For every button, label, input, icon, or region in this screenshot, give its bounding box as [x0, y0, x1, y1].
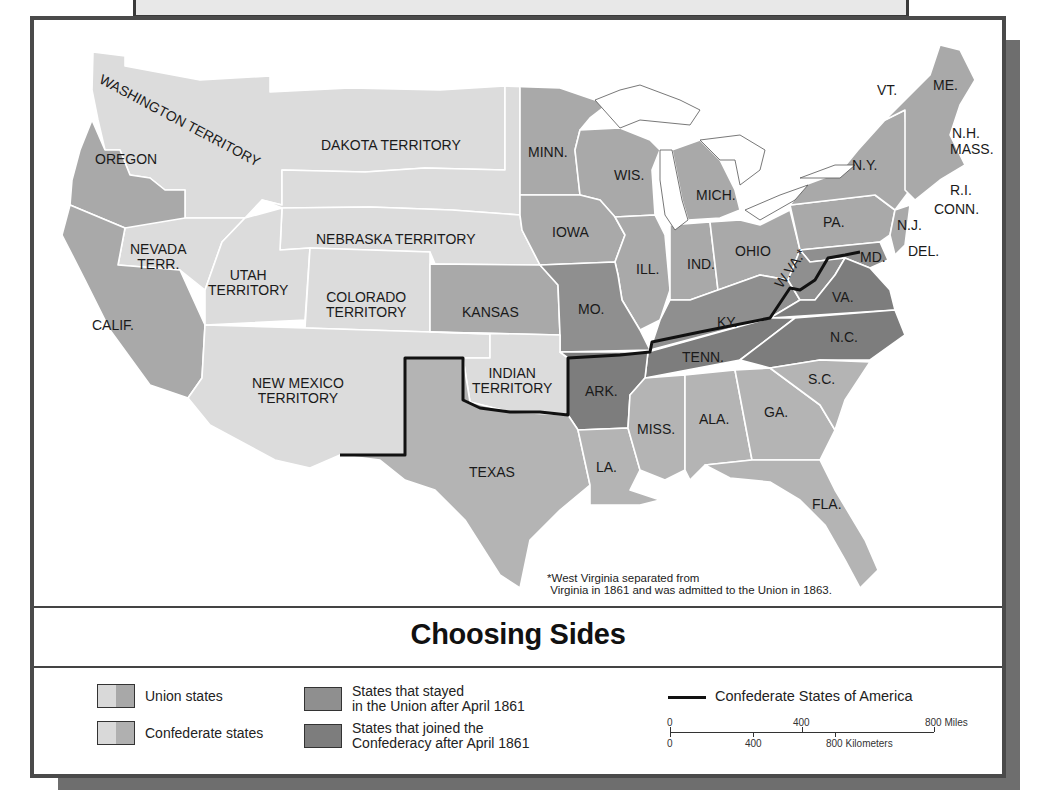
region-new-york	[790, 110, 910, 210]
title-rule-bottom	[34, 666, 1002, 668]
label-ind: IND.	[687, 257, 715, 272]
label-del: DEL.	[908, 244, 939, 259]
swatch-union	[97, 684, 135, 708]
label-vt: VT.	[877, 83, 897, 98]
label-dakota: DAKOTA TERRITORY	[321, 138, 461, 153]
label-iowa: IOWA	[552, 225, 589, 240]
scale-tick-800km	[835, 732, 836, 737]
legend-union-states: Union states	[97, 684, 223, 708]
title-rule-top	[34, 606, 1002, 608]
label-indian: INDIANTERRITORY	[472, 366, 552, 396]
label-ky: KY.	[717, 315, 738, 330]
label-me: ME.	[933, 78, 958, 93]
footnote: *West Virginia separated from Virginia i…	[547, 572, 832, 596]
scale-km-0: 0	[667, 738, 673, 749]
label-kansas: KANSAS	[462, 305, 519, 320]
label-sc: S.C.	[808, 372, 835, 387]
scale-miles-400: 400	[793, 717, 810, 728]
label-ill: ILL.	[636, 262, 659, 277]
label-nebraska: NEBRASKA TERRITORY	[316, 232, 476, 247]
label-nevada: NEVADATERR.	[130, 242, 187, 272]
scale-miles-0: 0	[667, 717, 673, 728]
legend-joined-confederacy: States that joined theConfederacy after …	[304, 721, 529, 751]
label-oregon: OREGON	[95, 152, 157, 167]
label-nh: N.H.	[952, 126, 980, 141]
swatch-confederate	[97, 721, 135, 745]
label-ark: ARK.	[585, 384, 618, 399]
label-calif: CALIF.	[92, 318, 134, 333]
label-wis: WIS.	[614, 168, 644, 183]
label-ri: R.I.	[950, 183, 972, 198]
region-kansas	[430, 264, 560, 335]
label-md: MD.	[860, 250, 886, 265]
label-nc: N.C.	[830, 330, 858, 345]
swatch-stayed-union	[304, 687, 342, 711]
label-colorado: COLORADOTERRITORY	[326, 290, 406, 320]
label-ohio: OHIO	[735, 244, 771, 259]
label-new-mexico: NEW MEXICOTERRITORY	[252, 376, 344, 406]
map-title: Choosing Sides	[34, 618, 1002, 651]
label-ga: GA.	[764, 405, 788, 420]
scale-km-800: 800 Kilometers	[826, 738, 893, 749]
label-utah: UTAHTERRITORY	[208, 268, 288, 298]
label-texas: TEXAS	[469, 465, 515, 480]
scale-bar	[670, 732, 934, 733]
region-florida	[705, 460, 878, 588]
label-mich: MICH.	[696, 188, 736, 203]
label-tenn: TENN.	[682, 350, 724, 365]
label-la: LA.	[596, 460, 617, 475]
csa-line-swatch	[668, 696, 706, 699]
legend-stayed-union: States that stayedin the Union after Apr…	[304, 684, 525, 714]
label-ny: N.Y.	[852, 158, 877, 173]
label-minn: MINN.	[528, 145, 568, 160]
label-ala: ALA.	[699, 412, 729, 427]
label-mo: MO.	[578, 302, 604, 317]
label-conn: CONN.	[934, 202, 979, 217]
scale-tick-400km	[753, 732, 754, 737]
lake-superior	[595, 85, 700, 128]
label-miss: MISS.	[637, 422, 675, 437]
label-va: VA.	[832, 290, 854, 305]
label-mass: MASS.	[950, 142, 994, 157]
swatch-joined-confederacy	[304, 724, 342, 748]
scale-km-400: 400	[745, 738, 762, 749]
legend-confederate-states: Confederate states	[97, 721, 263, 745]
us-map	[0, 0, 1045, 802]
label-pa: PA.	[823, 215, 845, 230]
csa-legend-label: Confederate States of America	[715, 688, 912, 704]
scale-tick-0	[670, 727, 671, 737]
label-nj: N.J.	[897, 218, 922, 233]
scale-miles-800: 800 Miles	[925, 717, 968, 728]
label-fla: FLA.	[812, 497, 842, 512]
